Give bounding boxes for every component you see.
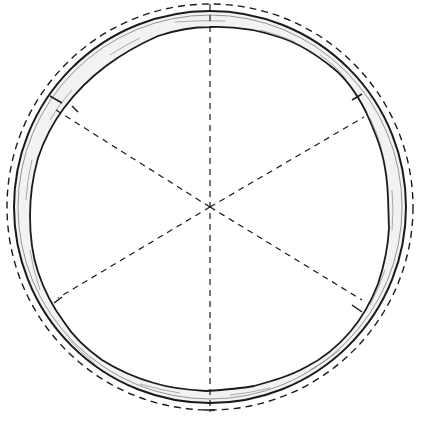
spoke-lower-right	[210, 207, 362, 300]
spoke-upper-left	[56, 110, 210, 207]
spoke-upper-right	[210, 117, 364, 207]
spoke-lower-left	[58, 207, 210, 298]
ring-cross-section-diagram	[0, 0, 428, 428]
